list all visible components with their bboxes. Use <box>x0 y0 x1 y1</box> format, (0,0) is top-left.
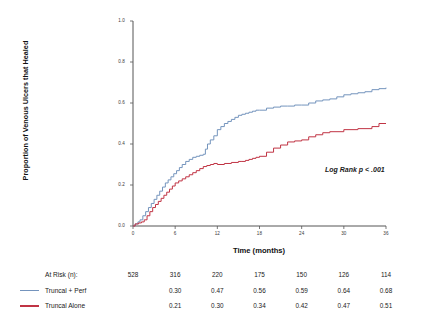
axes-group <box>133 21 386 226</box>
table-row: At Risk (n):528316220175150126114 <box>0 270 424 285</box>
table-row-label: At Risk (n): <box>45 270 78 280</box>
table-cell: 0.34 <box>243 301 277 311</box>
y-tick-label: 0.2 <box>103 182 125 187</box>
table-cell: 175 <box>243 270 277 280</box>
table-cell: 0.30 <box>158 286 192 296</box>
x-axis-title: Time (months) <box>133 246 385 255</box>
x-tick-label: 24 <box>292 231 312 236</box>
x-tick-label: 12 <box>207 231 227 236</box>
y-tick-label: 0.8 <box>103 59 125 64</box>
table-cell: 0.68 <box>369 286 403 296</box>
x-tick-label: 0 <box>123 231 143 236</box>
table-row: Truncal + Perf0.300.470.560.590.640.68 <box>0 286 424 301</box>
table-cell: 0.47 <box>200 286 234 296</box>
y-tick-label: 0.0 <box>103 223 125 228</box>
x-tick-label: 18 <box>250 231 270 236</box>
table-cell: 0.47 <box>327 301 361 311</box>
table-cell: 0.64 <box>327 286 361 296</box>
table-cell: 316 <box>158 270 192 280</box>
table-row-label: Truncal Alone <box>45 301 85 311</box>
table-cell: 0.56 <box>243 286 277 296</box>
y-tick-label: 1.0 <box>103 18 125 23</box>
table-cell: 220 <box>200 270 234 280</box>
tick-marks-group <box>130 21 386 229</box>
kaplan-meier-figure: Proportion of Venous Ulcers that Healed … <box>0 0 424 332</box>
table-row-label: Truncal + Perf <box>45 286 86 296</box>
legend-line-swatch <box>20 290 39 292</box>
legend-line-swatch <box>20 305 39 307</box>
table-cell: 114 <box>369 270 403 280</box>
table-cell: 0.42 <box>285 301 319 311</box>
survival-curve-truncal-alone <box>133 124 386 227</box>
table-cell: 0.21 <box>158 301 192 311</box>
table-cell: 0.51 <box>369 301 403 311</box>
log-rank-annotation: Log Rank p < .001 <box>325 166 385 173</box>
y-tick-label: 0.6 <box>103 100 125 105</box>
table-cell: 150 <box>285 270 319 280</box>
table-cell: 126 <box>327 270 361 280</box>
table-cell: 528 <box>116 270 150 280</box>
y-tick-label: 0.4 <box>103 141 125 146</box>
x-tick-label: 30 <box>334 231 354 236</box>
table-cell: 0.30 <box>200 301 234 311</box>
table-cell: 0.59 <box>285 286 319 296</box>
x-tick-label: 36 <box>376 231 396 236</box>
table-row: Truncal Alone0.210.300.340.420.470.51 <box>0 301 424 316</box>
x-tick-label: 6 <box>165 231 185 236</box>
survival-curves-group <box>133 88 386 226</box>
